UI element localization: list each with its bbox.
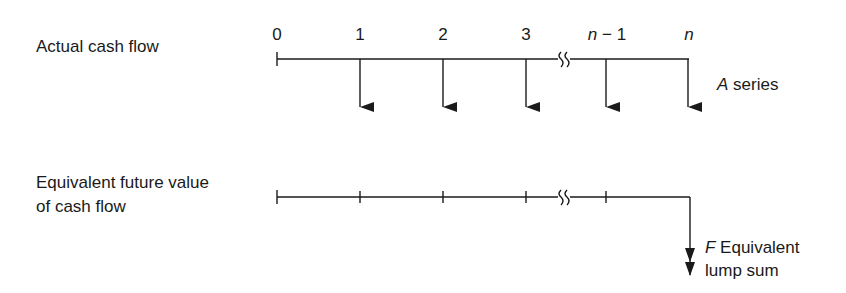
series-var: A [717, 75, 728, 94]
series-rest: series [728, 75, 778, 94]
lump-var: F [705, 238, 715, 257]
break-mark-icon [559, 190, 563, 205]
actual-cash-flow-label: Actual cash flow [36, 37, 159, 57]
period-3-label: 3 [521, 25, 530, 45]
period-2-label: 2 [438, 25, 447, 45]
break-mark-icon [559, 52, 563, 67]
equivalent-timeline [277, 190, 690, 275]
lump-rest: Equivalent [715, 238, 799, 257]
lump-sum-label-line1: F Equivalent [705, 238, 800, 258]
period-n-minus-1-label: n − 1 [588, 25, 626, 45]
lump-sum-label-line2: lump sum [705, 261, 779, 281]
equivalent-label-line1: Equivalent future value [36, 173, 209, 193]
a-series-label: A series [717, 75, 778, 95]
period-1-label: 1 [355, 25, 364, 45]
actual-timeline [277, 52, 689, 67]
equivalent-label-line2: of cash flow [36, 197, 126, 217]
lump-sum-double-arrow-icon [685, 248, 695, 276]
period-0-label: 0 [272, 25, 281, 45]
period-n-label: n [684, 25, 693, 45]
period-rest: − 1 [597, 25, 626, 44]
actual-arrows [360, 59, 688, 107]
